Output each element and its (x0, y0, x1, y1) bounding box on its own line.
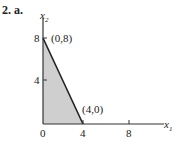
feasible-region-chart (0, 0, 174, 141)
x-tick-label-0: 0 (40, 128, 46, 139)
x-axis-label: x1 (164, 119, 172, 135)
x-tick-label-8: 8 (126, 128, 132, 139)
y-tick-label-8: 8 (34, 33, 40, 44)
point-label-0-8: (0,8) (51, 33, 72, 44)
x-axis-label-sub: 1 (169, 125, 173, 133)
y-tick-label-4: 4 (34, 75, 40, 86)
x-tick-label-4: 4 (80, 128, 86, 139)
y-axis-label: x2 (40, 10, 48, 26)
y-axis-label-sub: 2 (45, 16, 49, 24)
point-label-4-0: (4,0) (82, 104, 103, 115)
